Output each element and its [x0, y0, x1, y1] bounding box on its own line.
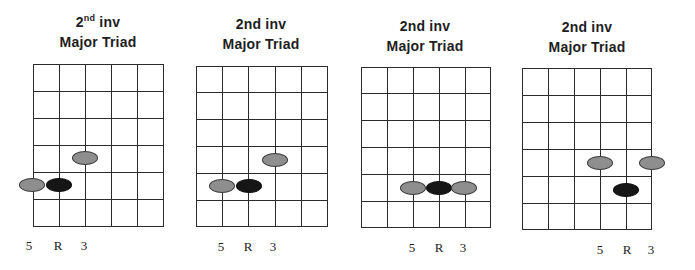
- diagram-title: 2nd invMajor Triad: [345, 16, 505, 56]
- interval-label: R: [244, 239, 253, 255]
- root-note-marker: [613, 183, 639, 197]
- diagram-title: 2nd invMajor Triad: [181, 14, 341, 54]
- fret-line: [362, 174, 490, 175]
- root-note-marker: [236, 179, 262, 193]
- fret-line: [523, 176, 651, 177]
- title-superscript: nd: [84, 13, 95, 23]
- interval-note-marker: [451, 181, 477, 195]
- fretboard-grid: [361, 67, 491, 228]
- fret-line: [34, 199, 163, 200]
- fret-line: [523, 95, 651, 96]
- fretboard-grid: [522, 68, 652, 230]
- title-line-chord-type: Major Triad: [345, 36, 505, 56]
- fret-line: [362, 120, 490, 121]
- fret-line: [34, 118, 163, 119]
- fret-line: [197, 173, 327, 174]
- title-rest: inv: [95, 14, 120, 30]
- title-main: 2nd inv: [562, 19, 612, 35]
- fret-line: [362, 147, 490, 148]
- fret-line: [523, 122, 651, 123]
- interval-note-marker: [19, 178, 45, 192]
- interval-label: 3: [270, 239, 277, 255]
- fretboard-grid: [33, 64, 164, 227]
- interval-note-marker: [72, 151, 98, 165]
- title-main: 2nd inv: [400, 18, 450, 34]
- diagram-title: 2nd invMajor Triad: [18, 12, 178, 52]
- title-line-inversion: 2nd inv: [345, 16, 505, 36]
- diagram-title: 2nd invMajor Triad: [507, 17, 667, 57]
- fret-line: [197, 92, 327, 93]
- fret-line: [197, 146, 327, 147]
- title-line-inversion: 2nd inv: [181, 14, 341, 34]
- fret-line: [523, 149, 651, 150]
- fretboard-grid: [196, 66, 328, 227]
- interval-label: 5: [218, 239, 225, 255]
- fret-line: [197, 119, 327, 120]
- interval-label: R: [54, 238, 63, 254]
- interval-note-marker: [262, 153, 288, 167]
- fret-line: [34, 172, 163, 173]
- title-main: 2: [76, 14, 84, 30]
- interval-note-marker: [209, 179, 235, 193]
- title-line-chord-type: Major Triad: [18, 32, 178, 52]
- fret-line: [362, 93, 490, 94]
- interval-label: 3: [81, 238, 88, 254]
- fret-line: [34, 91, 163, 92]
- interval-label: 3: [460, 240, 467, 256]
- interval-label: 5: [597, 242, 604, 258]
- interval-label: R: [435, 240, 444, 256]
- title-line-inversion: 2nd inv: [507, 17, 667, 37]
- root-note-marker: [46, 178, 72, 192]
- title-line-chord-type: Major Triad: [507, 37, 667, 57]
- title-line-chord-type: Major Triad: [181, 34, 341, 54]
- fret-line: [523, 203, 651, 204]
- interval-label: 3: [648, 242, 655, 258]
- interval-note-marker: [587, 156, 613, 170]
- interval-label: R: [623, 242, 632, 258]
- interval-note-marker: [400, 181, 426, 195]
- root-note-marker: [426, 181, 452, 195]
- interval-label: 5: [26, 238, 33, 254]
- fret-line: [34, 145, 163, 146]
- fret-line: [362, 201, 490, 202]
- interval-note-marker: [639, 156, 665, 170]
- interval-label: 5: [409, 240, 416, 256]
- title-line-inversion: 2nd inv: [18, 12, 178, 32]
- title-main: 2nd inv: [236, 16, 286, 32]
- fret-line: [197, 200, 327, 201]
